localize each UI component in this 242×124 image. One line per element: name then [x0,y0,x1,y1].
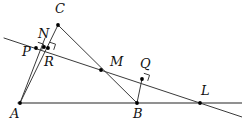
point-dot-n [42,45,46,49]
point-dot-p [34,46,38,50]
point-label-l: L [201,84,210,97]
point-dot-c [56,23,60,27]
transversal-P-through-L [4,38,242,117]
point-dot-m [99,68,103,72]
point-dot-q [140,77,144,81]
segment-C-to-B [58,25,137,103]
point-dot-b [135,101,139,105]
point-label-p: P [22,45,31,58]
point-label-a: A [10,107,19,120]
point-label-q: Q [140,57,151,70]
point-dot-l [198,101,202,105]
point-dot-r [46,46,50,50]
geometry-figure: ABCLMNPQR [0,0,242,124]
point-label-b: B [133,107,143,120]
point-label-r: R [44,55,54,68]
point-label-c: C [55,2,65,15]
point-label-m: M [110,55,123,68]
point-label-n: N [38,27,49,40]
point-dot-a [18,101,22,105]
